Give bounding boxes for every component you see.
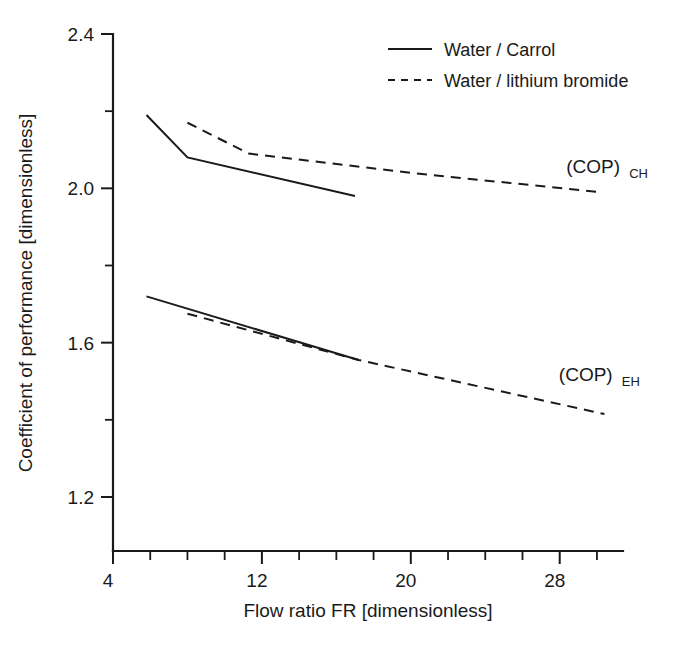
y-axis-title: Coefficient of performance [dimensionles… bbox=[15, 114, 36, 473]
axes-frame bbox=[113, 34, 623, 551]
x-tick-label: 12 bbox=[246, 570, 267, 591]
curve-annotations: (COP)CH(COP)EH bbox=[559, 156, 648, 389]
annotation-subscript-ch: CH bbox=[629, 166, 648, 181]
figure-container: 2.42.01.61.2 4122028 (COP)CH(COP)EH Wate… bbox=[0, 0, 683, 650]
legend: Water / Carrol Water / lithium bromide bbox=[388, 40, 628, 91]
x-tick-label: 28 bbox=[544, 570, 565, 591]
chart-canvas: 2.42.01.61.2 4122028 (COP)CH(COP)EH Wate… bbox=[0, 0, 683, 650]
x-tick-label: 4 bbox=[103, 570, 114, 591]
y-axis-tick-labels: 2.42.01.61.2 bbox=[68, 24, 95, 508]
series-line-cop_eh-3 bbox=[187, 314, 604, 414]
series-line-cop_ch-1 bbox=[187, 123, 600, 192]
annotation-eh: (COP)EH bbox=[559, 364, 640, 389]
y-tick-label: 1.6 bbox=[68, 333, 94, 354]
annotation-label-ch: (COP) bbox=[566, 156, 620, 177]
annotation-subscript-eh: EH bbox=[622, 374, 640, 389]
annotation-ch: (COP)CH bbox=[566, 156, 648, 181]
y-tick-label: 2.4 bbox=[68, 24, 95, 45]
x-tick-label: 20 bbox=[395, 570, 416, 591]
x-axis-title: Flow ratio FR [dimensionless] bbox=[243, 600, 492, 621]
x-axis-tick-labels: 4122028 bbox=[103, 570, 566, 591]
annotation-label-eh: (COP) bbox=[559, 364, 613, 385]
series-line-cop_ch-0 bbox=[147, 115, 355, 196]
y-axis-ticks bbox=[101, 34, 113, 497]
y-tick-label: 2.0 bbox=[68, 178, 94, 199]
y-tick-label: 1.2 bbox=[68, 487, 94, 508]
data-series-group bbox=[147, 115, 605, 414]
legend-label-water-lithium-bromide: Water / lithium bromide bbox=[444, 71, 628, 91]
legend-label-water-carrol: Water / Carrol bbox=[444, 40, 555, 60]
